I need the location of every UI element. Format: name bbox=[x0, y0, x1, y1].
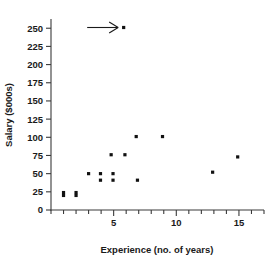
data-point bbox=[135, 135, 138, 138]
data-point bbox=[110, 153, 113, 156]
y-tick-label: 200 bbox=[27, 59, 43, 70]
data-point bbox=[62, 191, 65, 194]
data-point bbox=[62, 194, 65, 197]
y-tick-label: 25 bbox=[32, 186, 43, 197]
data-point bbox=[99, 172, 102, 175]
y-tick-label: 50 bbox=[32, 168, 43, 179]
data-point bbox=[111, 172, 114, 175]
data-point bbox=[136, 179, 139, 182]
y-tick-label: 150 bbox=[27, 95, 43, 106]
y-tick-label: 75 bbox=[32, 150, 43, 161]
x-axis-title: Experience (no. of years) bbox=[101, 244, 214, 255]
data-point bbox=[161, 135, 164, 138]
scatter-plot-figure: 0255075100125150175200225250 51015 Exper… bbox=[0, 0, 273, 263]
x-tick-label: 15 bbox=[234, 217, 245, 228]
x-tick-label: 5 bbox=[111, 217, 117, 228]
y-tick-label: 175 bbox=[27, 77, 44, 88]
data-point bbox=[236, 155, 239, 158]
data-point bbox=[122, 26, 125, 29]
y-tick-label: 100 bbox=[27, 132, 43, 143]
x-tick-label: 10 bbox=[171, 217, 182, 228]
data-point bbox=[123, 153, 126, 156]
data-point bbox=[99, 179, 102, 182]
data-point bbox=[74, 191, 77, 194]
data-point bbox=[74, 194, 77, 197]
y-tick-label: 225 bbox=[27, 41, 44, 52]
data-point bbox=[111, 179, 114, 182]
data-point bbox=[87, 172, 90, 175]
data-point bbox=[211, 171, 214, 174]
y-tick-label: 125 bbox=[27, 114, 44, 125]
y-tick-label: 0 bbox=[38, 204, 43, 215]
y-axis-title: Salary ($000s) bbox=[3, 83, 14, 147]
chart-canvas: 0255075100125150175200225250 51015 Exper… bbox=[0, 0, 273, 263]
y-tick-label: 250 bbox=[27, 23, 43, 34]
